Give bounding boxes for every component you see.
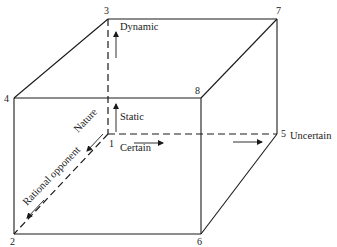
vertex-1-label: 1 <box>109 138 114 149</box>
vertex-8-label: 8 <box>195 85 200 96</box>
vertex-7-label: 7 <box>276 5 281 16</box>
cube-diagram: 3 7 4 8 1 5 2 6 Dynamic Static Certain U… <box>0 0 337 247</box>
edge-8-7 <box>201 19 277 98</box>
uncertain-label: Uncertain <box>290 130 332 141</box>
certain-label: Certain <box>120 142 152 153</box>
vertex-6-label: 6 <box>197 236 202 247</box>
vertex-3-label: 3 <box>104 5 109 16</box>
vertex-4-label: 4 <box>4 93 9 104</box>
dynamic-label: Dynamic <box>120 21 159 32</box>
cube-edges <box>14 19 277 234</box>
edge-4-3 <box>14 19 108 98</box>
static-label: Static <box>120 111 144 122</box>
rational-opponent-label: Rational opponent <box>21 144 83 207</box>
vertex-5-label: 5 <box>281 128 286 139</box>
vertex-2-label: 2 <box>10 236 15 247</box>
axis-labels: Dynamic Static Certain Uncertain Nature … <box>21 21 333 207</box>
axis-arrows <box>27 32 262 218</box>
edge-1-2-hidden <box>14 134 108 234</box>
edge-5-6 <box>201 134 277 234</box>
nature-label: Nature <box>72 106 100 134</box>
vertex-labels: 3 7 4 8 1 5 2 6 <box>4 5 286 247</box>
hidden-edges <box>14 19 277 234</box>
